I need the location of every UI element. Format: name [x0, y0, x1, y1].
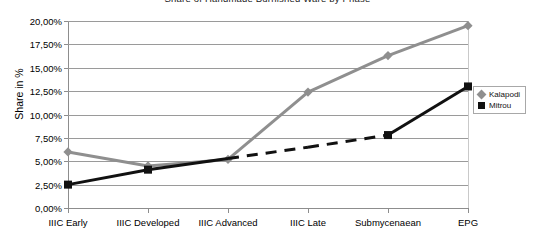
y-tick-label: 7,50% — [35, 132, 62, 143]
y-tick-label: 2,50% — [35, 179, 62, 190]
x-tick-mark — [468, 208, 469, 213]
y-tick-label: 20,00% — [30, 16, 62, 27]
series-segment — [68, 170, 148, 185]
legend-item-kalapodi: Kalapodi — [478, 90, 520, 99]
series-segment — [308, 56, 388, 92]
legend-item-mitrou: Mitrou — [478, 101, 520, 110]
x-tick-label: IIIC Advanced — [198, 217, 257, 228]
y-tick-label: 12,50% — [30, 86, 62, 97]
chart-title: Share of Handmade Burnished Ware by Phas… — [0, 0, 535, 4]
legend-label: Kalapodi — [489, 90, 520, 99]
series-segment — [228, 92, 308, 159]
square-marker-icon — [478, 102, 485, 109]
y-tick-label: 17,50% — [30, 39, 62, 50]
data-point-marker — [64, 181, 72, 189]
x-tick-label: IIIC Early — [48, 217, 87, 228]
y-tick-label: 15,00% — [30, 62, 62, 73]
data-point-marker — [144, 166, 152, 174]
y-tick-label: 10,00% — [30, 109, 62, 120]
data-point-marker — [383, 51, 392, 60]
legend-label: Mitrou — [489, 101, 511, 110]
data-point-marker — [463, 21, 472, 30]
chart-container: Share of Handmade Burnished Ware by Phas… — [0, 0, 535, 236]
y-tick-label: 0,00% — [35, 203, 62, 214]
data-point-marker — [63, 147, 72, 156]
y-axis-label: Share in % — [13, 49, 25, 139]
x-tick-label: Submycenaean — [355, 217, 421, 228]
series-segment — [308, 135, 388, 147]
plot-right-border — [468, 21, 469, 209]
data-point-marker — [464, 82, 472, 90]
y-tick-label: 5,00% — [35, 156, 62, 167]
diamond-marker-icon — [477, 90, 487, 100]
series-lines — [68, 21, 468, 209]
x-tick-label: IIIC Late — [290, 217, 326, 228]
plot-area: 0,00%2,50%5,00%7,50%10,00%12,50%15,00%17… — [68, 21, 468, 208]
data-point-marker — [384, 131, 392, 139]
chart-legend: Kalapodi Mitrou — [473, 86, 526, 114]
x-tick-label: IIIC Developed — [117, 217, 180, 228]
x-tick-label: EPG — [458, 217, 478, 228]
series-segment — [388, 26, 468, 56]
series-segment — [388, 86, 468, 135]
series-segment — [68, 152, 148, 166]
